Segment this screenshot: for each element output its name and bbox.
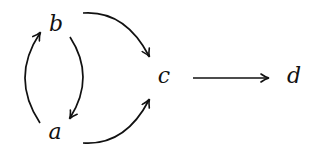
diagram-canvas: b a c d [0,0,318,154]
edge-a-to-c [83,100,149,143]
node-b: b [49,13,63,35]
node-d: d [287,65,301,87]
node-c: c [158,65,170,87]
edge-b-to-a [70,37,83,118]
edge-b-to-c [83,13,149,56]
edge-a-to-b [25,33,40,123]
node-a: a [48,121,61,143]
